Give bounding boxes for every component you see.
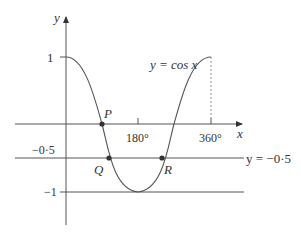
point-p-label: P (103, 106, 112, 121)
y-tick-label-minus-half: −0·5 (32, 143, 55, 157)
y-tick-label-minus-one: −1 (44, 185, 57, 199)
line-equation-label: y = −0·5 (246, 151, 291, 166)
point-r (159, 155, 164, 160)
point-r-label: R (163, 162, 172, 177)
point-q-label: Q (94, 162, 104, 177)
curve-equation-label: y = cos x (148, 57, 198, 72)
y-tick-label-1: 1 (47, 50, 54, 65)
point-p (99, 121, 104, 126)
x-tick-label-360: 360° (199, 131, 222, 145)
point-q (106, 155, 111, 160)
cosine-graph: y x 1 180° 360° −0·5 y = −0·5 −1 y = cos… (0, 0, 301, 234)
y-axis-label: y (52, 10, 60, 25)
x-axis-label: x (236, 126, 243, 141)
x-tick-label-180: 180° (126, 131, 149, 145)
